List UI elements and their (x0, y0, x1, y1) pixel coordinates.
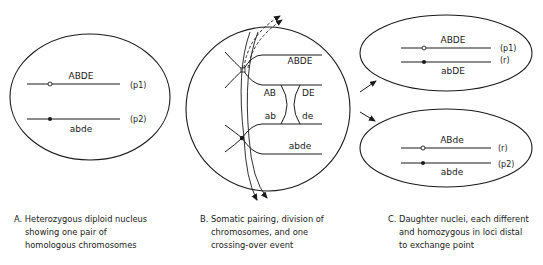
tag-r: (r) (498, 144, 508, 153)
tag-p1: (p1) (500, 44, 516, 53)
label-abDE: abDE (441, 66, 465, 76)
label-ABDE: ABDE (441, 35, 466, 45)
panel-c-lower-nucleus: ABde abde (r) (p2) (360, 109, 532, 187)
tag-p2: (p2) (130, 115, 146, 124)
panel-a-nucleus: ABDE abde (p1) (p2) (10, 34, 170, 160)
label-AB: AB (264, 88, 276, 98)
label-abde: abde (70, 124, 93, 134)
label-DE: DE (302, 88, 315, 98)
centromere-open-icon (421, 146, 425, 150)
panel-c-upper-nucleus: ABDE abDE (p1) (r) (360, 15, 532, 91)
centromere-filled-icon (48, 117, 52, 121)
tag-p1: (p1) (130, 81, 146, 90)
label-ABDE: ABDE (69, 71, 94, 81)
caption-c: C. Daughter nuclei, each different and h… (388, 213, 529, 252)
tag-p2: (p2) (498, 160, 514, 169)
label-de: de (302, 111, 314, 121)
tag-r: (r) (500, 56, 510, 65)
centromere-open-icon (48, 82, 52, 86)
centromere-open-icon (422, 46, 426, 50)
label-ab: ab (265, 111, 277, 121)
panel-b-nucleus: ABDE AB DE ab de abde (186, 16, 350, 200)
centromere-filled-icon (421, 161, 425, 165)
caption-b: B. Somatic pairing, division of chromoso… (200, 213, 324, 252)
arrow-to-lower-icon (360, 112, 375, 121)
label-ABde: ABde (440, 135, 464, 145)
arrow-to-upper-icon (360, 81, 376, 92)
caption-a: A. Heterozygous diploid nucleus showing … (14, 213, 147, 252)
label-abde: abde (289, 141, 312, 151)
centromere-filled-icon (422, 60, 426, 64)
label-ABDE: ABDE (288, 56, 313, 66)
label-abde: abde (441, 167, 464, 177)
